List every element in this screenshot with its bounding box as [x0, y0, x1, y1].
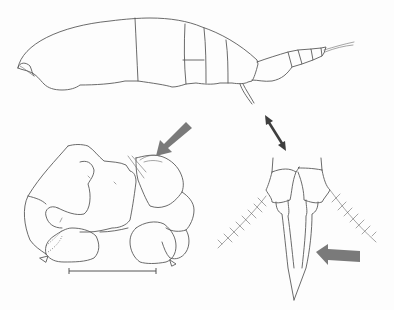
scientific-figure — [0, 0, 394, 310]
arrow-uropod-icon — [316, 244, 360, 265]
scale-bar — [69, 268, 156, 274]
double-arrow-icon — [265, 115, 286, 151]
appendage-drawing — [24, 145, 194, 267]
habitus-drawing — [18, 18, 354, 104]
uropod-drawing — [218, 158, 376, 300]
arrow-appendage-icon — [156, 122, 192, 156]
